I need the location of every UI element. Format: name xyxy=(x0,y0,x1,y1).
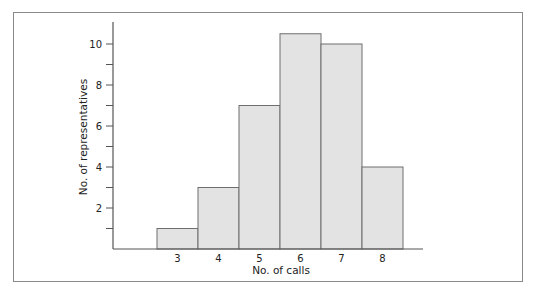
bar-6 xyxy=(280,34,321,249)
x-tick-label: 3 xyxy=(174,253,180,264)
histogram-chart: 246810 345678 No. of calls No. of repres… xyxy=(0,0,539,291)
x-tick-label: 4 xyxy=(215,253,221,264)
x-tick-label: 7 xyxy=(338,253,344,264)
y-tick-label: 8 xyxy=(96,80,102,91)
bar-4 xyxy=(198,188,239,250)
y-tick-label: 2 xyxy=(96,203,102,214)
x-tick-label: 8 xyxy=(379,253,385,264)
y-tick-label: 6 xyxy=(96,121,102,132)
x-tick-label: 5 xyxy=(256,253,262,264)
x-tick-label: 6 xyxy=(297,253,303,264)
y-tick-label: 4 xyxy=(96,162,102,173)
bar-5 xyxy=(239,106,280,250)
bars-group xyxy=(157,34,403,249)
bar-3 xyxy=(157,229,198,250)
y-tick-label: 10 xyxy=(89,39,102,50)
bar-8 xyxy=(362,167,403,249)
bar-7 xyxy=(321,44,362,249)
x-tick-labels: 345678 xyxy=(174,253,385,264)
y-ticks: 246810 xyxy=(89,39,113,229)
y-axis-title: No. of representatives xyxy=(77,79,89,195)
x-axis-title: No. of calls xyxy=(252,264,310,276)
